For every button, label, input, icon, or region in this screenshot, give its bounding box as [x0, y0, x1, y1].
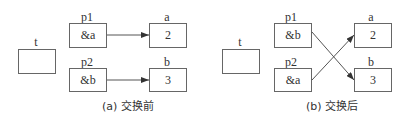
pointer-arrows — [0, 0, 408, 121]
